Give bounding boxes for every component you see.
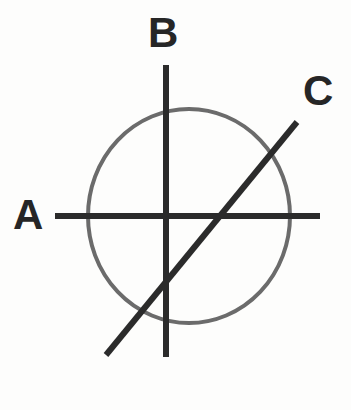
geometry-diagram: A B C: [0, 0, 351, 410]
label-c: C: [303, 70, 333, 112]
geometry-canvas: [0, 0, 351, 410]
label-b: B: [148, 12, 178, 54]
diagram-background: [0, 0, 351, 410]
label-a: A: [13, 194, 43, 236]
